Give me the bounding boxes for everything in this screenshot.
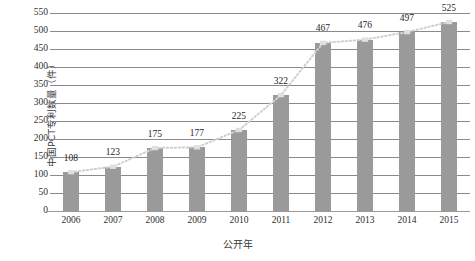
bar: 476: [357, 40, 374, 211]
bar-cell: 525: [428, 13, 470, 211]
bar: 175: [147, 148, 164, 211]
bar-value-label: 525: [442, 4, 456, 14]
x-tick-label: 2012: [302, 215, 344, 225]
x-axis-line: [46, 211, 470, 212]
bar-cell: 497: [386, 13, 428, 211]
bar-value-label: 497: [400, 14, 414, 24]
bar-cell: 467: [302, 13, 344, 211]
bar: 497: [399, 32, 416, 211]
x-tick-label: 2010: [218, 215, 260, 225]
x-tick-label: 2011: [260, 215, 302, 225]
bar-cell: 476: [344, 13, 386, 211]
bar-value-label: 225: [232, 112, 246, 122]
bar: 123: [105, 167, 122, 211]
y-tick-label: 0: [18, 206, 48, 216]
y-tick-label: 450: [18, 44, 48, 54]
y-tick-label: 100: [18, 170, 48, 180]
bar-cell: 322: [260, 13, 302, 211]
x-tick-label: 2013: [344, 215, 386, 225]
y-tick-label: 200: [18, 134, 48, 144]
bar-cell: 123: [92, 13, 134, 211]
y-tick-label: 250: [18, 116, 48, 126]
bar-cell: 225: [218, 13, 260, 211]
bar-value-label: 322: [274, 77, 288, 87]
bar-value-label: 177: [190, 129, 204, 139]
bar: 225: [231, 130, 248, 211]
x-tick-label: 2007: [92, 215, 134, 225]
y-tick-label: 300: [18, 98, 48, 108]
bar-value-label: 108: [64, 154, 78, 164]
bar-cell: 177: [176, 13, 218, 211]
bar: 177: [189, 147, 206, 211]
x-tick-label: 2006: [50, 215, 92, 225]
bar-value-label: 476: [358, 21, 372, 31]
y-tick-label: 500: [18, 26, 48, 36]
y-axis-tick-labels: 050100150200250300350400450500550: [18, 0, 48, 213]
x-tick-label: 2015: [428, 215, 470, 225]
y-tick-label: 50: [18, 188, 48, 198]
bar: 322: [273, 95, 290, 211]
y-tick-label: 400: [18, 62, 48, 72]
y-tick-label: 350: [18, 80, 48, 90]
x-axis-title: 公开年: [0, 236, 475, 251]
bar-chart: 中国PCT专利数量（件） 050100150200250300350400450…: [0, 0, 475, 261]
bar-value-label: 467: [316, 24, 330, 34]
y-tick-label: 550: [18, 8, 48, 18]
bar-series: 108123175177225322467476497525: [50, 13, 470, 211]
x-tick-label: 2014: [386, 215, 428, 225]
bar-cell: 108: [50, 13, 92, 211]
x-axis-tick-labels: 2006200720082009201020112012201320142015: [50, 215, 470, 225]
bar-cell: 175: [134, 13, 176, 211]
bar-value-label: 175: [148, 130, 162, 140]
bar: 525: [441, 22, 458, 211]
bar-value-label: 123: [106, 148, 120, 158]
plot-area: 108123175177225322467476497525: [50, 13, 470, 211]
y-tick-label: 150: [18, 152, 48, 162]
bar: 467: [315, 43, 332, 211]
bar: 108: [63, 172, 80, 211]
x-tick-label: 2009: [176, 215, 218, 225]
x-tick-label: 2008: [134, 215, 176, 225]
